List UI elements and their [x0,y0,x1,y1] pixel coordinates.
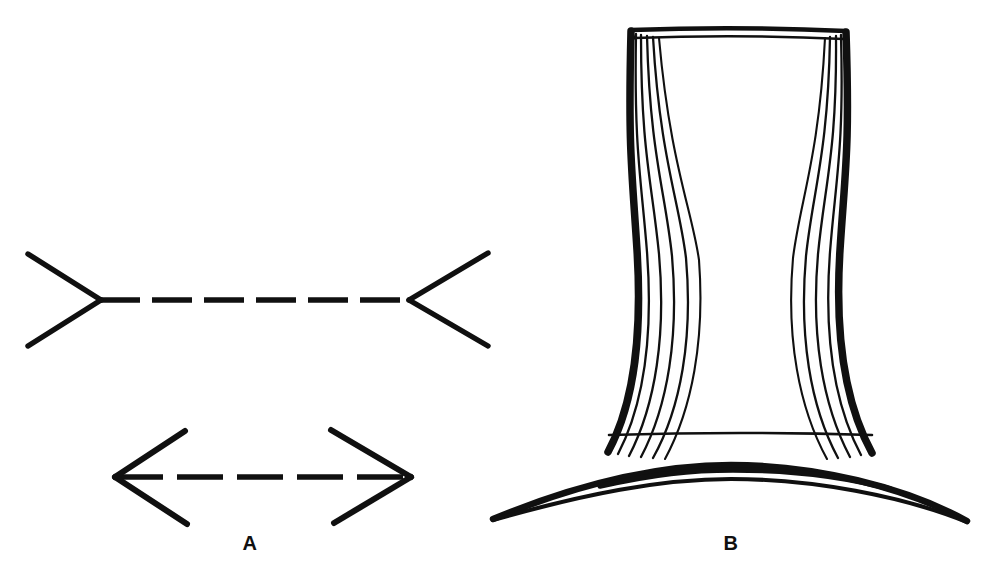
fin-left-lower-outward [28,300,101,346]
hat-crown-right-curve-4 [791,38,827,459]
arrowhead-right-lower-inward [334,477,411,523]
fin-right-lower-outward [409,300,488,346]
hat-band-line [609,433,872,435]
hat-crown-left-curve-5 [659,38,700,459]
fin-right-upper-outward [409,253,488,300]
top-hat-figure [493,28,967,522]
fin-left-upper-outward [28,254,101,300]
illusion-drawing-canvas [0,0,983,586]
hat-crown-left-outer-edge [608,31,639,452]
illusion-figure-plate: A B [0,0,983,586]
muller-lyer-outward-fins [28,253,488,346]
panel-label-b: B [711,533,751,553]
hat-top-rim-inner-edge [634,36,844,39]
panel-label-a: A [230,533,270,553]
arrowhead-right-upper-inward [331,430,411,477]
arrowhead-left-upper-inward [115,431,185,477]
muller-lyer-inward-fins [115,430,411,524]
hat-top-rim-outer-edge [631,28,846,31]
arrowhead-left-lower-inward [115,477,187,524]
hat-crown-right-outer-edge [839,32,872,453]
hat-brim-top-edge [493,465,967,521]
hat-brim-bottom-edge [493,479,967,522]
